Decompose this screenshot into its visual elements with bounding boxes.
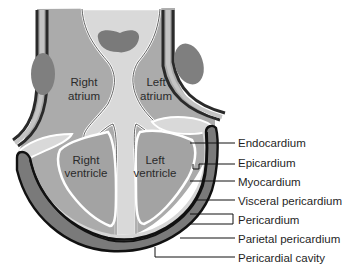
label-parietal-pericardium: Parietal pericardium xyxy=(238,233,340,245)
label-epicardium: Epicardium xyxy=(238,157,296,169)
leader-cavity xyxy=(155,247,235,257)
heart-diagram: Right atrium Left atrium Right ventricle… xyxy=(0,0,354,270)
right-ventricle-label: Right xyxy=(73,154,101,166)
label-pericardium: Pericardium xyxy=(238,214,299,226)
label-endocardium: Endocardium xyxy=(238,137,306,149)
left-atrium-label: Left xyxy=(146,76,166,88)
right-atrium-label-2: atrium xyxy=(68,90,100,102)
label-myocardium: Myocardium xyxy=(238,176,301,188)
right-ventricle-label-2: ventricle xyxy=(65,167,108,179)
right-atrium-label: Right xyxy=(71,76,99,88)
left-ventricle-label-2: ventricle xyxy=(134,167,177,179)
label-pericardial-cavity: Pericardial cavity xyxy=(238,252,325,264)
left-atrium-label-2: atrium xyxy=(140,90,172,102)
right-atrial-appendage xyxy=(31,53,55,95)
label-visceral-pericardium: Visceral pericardium xyxy=(238,195,342,207)
left-ventricle-label: Left xyxy=(145,154,165,166)
